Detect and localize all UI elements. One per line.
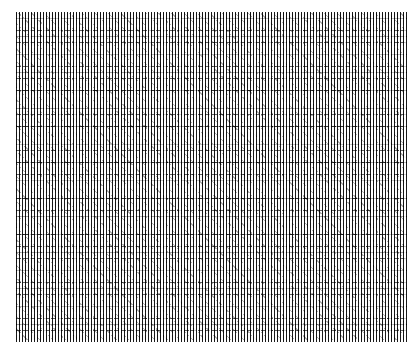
noise-texture <box>16 12 407 342</box>
